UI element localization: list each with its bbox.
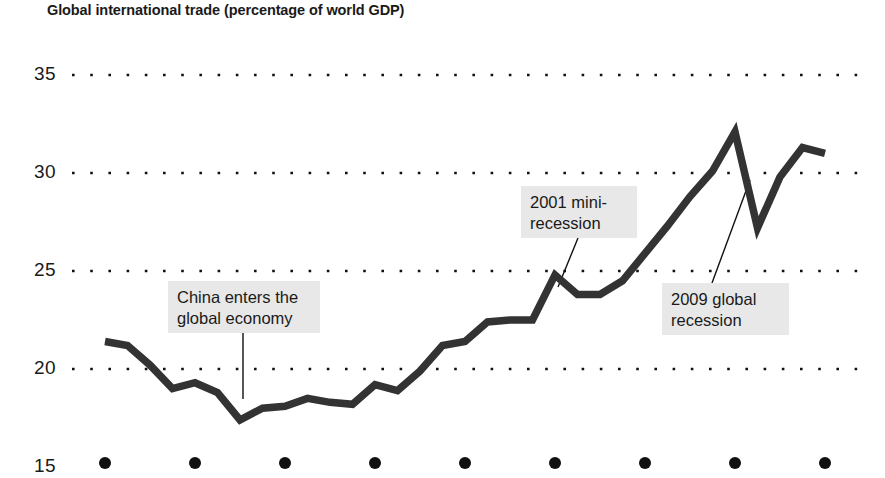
leader-line-global-recession-2009: [712, 180, 750, 283]
x-tick-dot-1980: [99, 457, 111, 469]
x-tick-dot-1988: [279, 457, 291, 469]
x-tick-dot-2000: [549, 457, 561, 469]
annotation-china-enters-global-economy: China enters the global economy: [168, 281, 320, 333]
x-tick-dot-1996: [459, 457, 471, 469]
chart-figure: Global international trade (percentage o…: [0, 0, 885, 478]
x-tick-dot-2008: [729, 457, 741, 469]
y-axis-label-25: 25: [12, 259, 56, 281]
x-axis-tick-dots: [99, 457, 831, 469]
chart-plot-area: [0, 0, 885, 478]
y-axis-label-15: 15: [12, 455, 56, 477]
annotation-2009-global-recession: 2009 global recession: [662, 283, 789, 335]
x-tick-dot-1984: [189, 457, 201, 469]
y-axis-label-30: 30: [12, 161, 56, 183]
x-tick-dot-2004: [639, 457, 651, 469]
y-axis-label-35: 35: [12, 63, 56, 85]
annotation-2001-mini-recession: 2001 mini- recession: [521, 186, 637, 238]
trade-series-line: [105, 132, 825, 420]
y-axis-label-20: 20: [12, 357, 56, 379]
x-tick-dot-2012: [819, 457, 831, 469]
x-tick-dot-1992: [369, 457, 381, 469]
